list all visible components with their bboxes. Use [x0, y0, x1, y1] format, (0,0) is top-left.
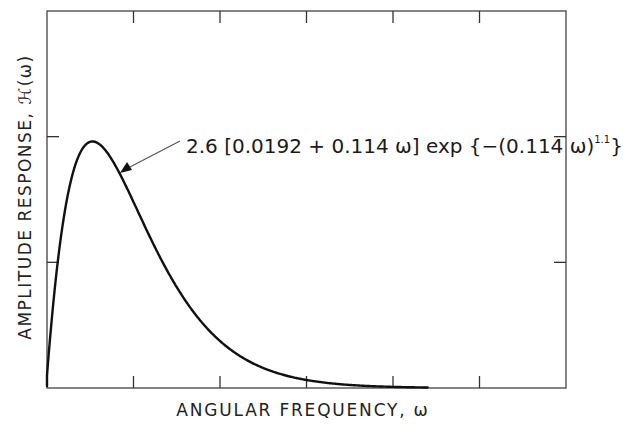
arrow-head-icon [120, 162, 132, 173]
annotation-arrow [120, 141, 180, 173]
y-axis-label: AMPLITUDE RESPONSE, ℋ(ω) [15, 54, 35, 339]
formula-exponent: 1.1 [594, 134, 610, 145]
x-axis-label: ANGULAR FREQUENCY, ω [176, 400, 429, 420]
amplitude-response-curve [47, 141, 428, 387]
formula-text: 2.6 [0.0192 + 0.114 ω] exp {−(0.114 ω) [186, 134, 594, 158]
plot-frame [47, 11, 566, 388]
axis-ticks [47, 11, 566, 388]
formula-suffix: } [610, 134, 623, 158]
formula-annotation: 2.6 [0.0192 + 0.114 ω] exp {−(0.114 ω)1.… [186, 134, 623, 158]
